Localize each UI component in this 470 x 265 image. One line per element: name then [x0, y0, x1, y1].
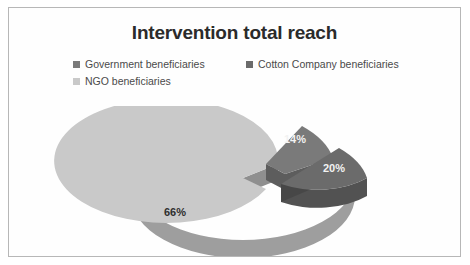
- chart-frame: Intervention total reach Government bene…: [8, 7, 461, 257]
- legend-item-government[interactable]: Government beneficiaries: [73, 58, 205, 70]
- pie-chart-svg: 66% 14% 20%: [23, 106, 448, 256]
- pie-slice-label-government: 14%: [284, 133, 306, 145]
- legend-item-cotton-company[interactable]: Cotton Company beneficiaries: [246, 58, 399, 70]
- pie-slice-label-ngo: 66%: [164, 206, 186, 218]
- legend-row: NGO beneficiaries: [65, 75, 435, 92]
- legend-item-label: Government beneficiaries: [85, 58, 205, 70]
- legend-item-label: Cotton Company beneficiaries: [258, 58, 399, 70]
- chart-legend: Government beneficiaries Cotton Company …: [65, 58, 435, 92]
- legend-row: Government beneficiaries Cotton Company …: [65, 58, 435, 75]
- legend-swatch-icon: [73, 61, 80, 68]
- pie-slice-label-cotton-company: 20%: [323, 162, 345, 174]
- pie-chart: 66% 14% 20%: [23, 106, 448, 256]
- legend-swatch-icon: [73, 78, 80, 85]
- page-title: Intervention total reach: [9, 22, 460, 44]
- legend-swatch-icon: [246, 61, 253, 68]
- legend-item-ngo[interactable]: NGO beneficiaries: [73, 75, 171, 87]
- legend-item-label: NGO beneficiaries: [85, 75, 171, 87]
